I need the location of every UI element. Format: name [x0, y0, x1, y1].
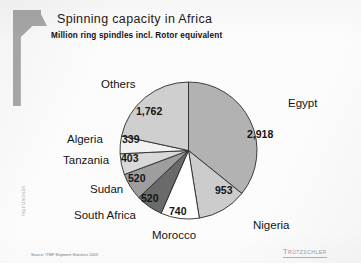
slice-label-morocco: Morocco	[152, 229, 196, 241]
slice-value-morocco: 740	[169, 205, 187, 217]
slice-value-egypt: 2,918	[247, 128, 273, 140]
page-title: Spinning capacity in Africa	[57, 12, 212, 26]
side-margin-code: TRUETZSCHLER	[22, 186, 26, 216]
slice-label-nigeria: Nigeria	[253, 219, 289, 231]
slice-label-egypt: Egypt	[288, 97, 317, 109]
slice-value-tanzania: 403	[121, 152, 139, 164]
company-logo: Trützschler	[283, 247, 327, 258]
slice-value-sudan: 520	[128, 172, 146, 184]
slice-label-tanzania: Tanzania	[63, 154, 109, 166]
page-subtitle: Million ring spindles incl. Rotor equiva…	[51, 31, 222, 40]
slice-label-south-africa: South Africa	[74, 209, 136, 221]
slice-value-south-africa: 520	[141, 192, 159, 204]
slice-label-sudan: Sudan	[90, 183, 123, 195]
slice-value-nigeria: 953	[215, 184, 233, 196]
source-note: Source: ITMF Shipment Statistics 2003	[31, 253, 98, 257]
slice-value-others: 1,762	[136, 105, 162, 117]
slide-canvas: Spinning capacity in Africa Million ring…	[0, 0, 361, 279]
slice-label-others: Others	[101, 78, 136, 90]
slice-label-algeria: Algeria	[67, 133, 103, 145]
slice-value-algeria: 339	[122, 133, 140, 145]
